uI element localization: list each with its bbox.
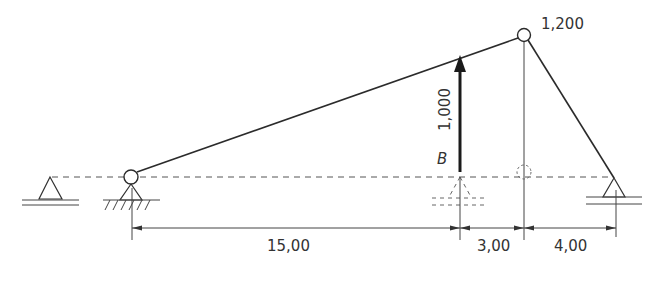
- load-arrow: [454, 55, 466, 172]
- dimension-label-span-3: 4,00: [554, 237, 587, 255]
- dimension-line: [132, 226, 616, 231]
- structural-diagram: 1,200 1,000 B 15,00 3,00 4,00: [0, 0, 667, 282]
- point-b-label: B: [437, 150, 447, 168]
- apex-label: 1,200: [541, 15, 584, 33]
- right-member: [528, 40, 614, 178]
- left-roller-support: [22, 177, 79, 205]
- ghost-support-b: [432, 177, 488, 240]
- left-hinge: [124, 170, 138, 184]
- dimension-label-span-1: 15,00: [267, 237, 310, 255]
- load-label: 1,000: [436, 88, 454, 131]
- apex-hinge: [518, 29, 531, 42]
- left-pin-support: [103, 184, 160, 240]
- dimension-label-span-2: 3,00: [477, 237, 510, 255]
